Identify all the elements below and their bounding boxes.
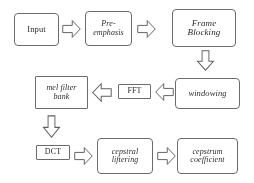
- arrow-preemphasis-to-frame-blocking: [137, 19, 156, 39]
- node-frame-blocking[interactable]: FrameBlocking: [172, 9, 236, 47]
- arrow-fft-to-mel-filter-bank: [92, 82, 112, 103]
- node-mel-filter-bank-label: mel filterbank: [36, 84, 87, 101]
- node-cepstrum-coefficient[interactable]: cepstrumcoefficient: [177, 138, 238, 174]
- node-windowing-label: windowing: [176, 89, 239, 98]
- arrow-cepstral-liftering-to-cepstrum-coefficient: [157, 146, 176, 166]
- node-cepstral-liftering-label: cepstralliftering: [98, 148, 152, 165]
- node-input-label: Input: [15, 25, 58, 34]
- node-input[interactable]: Input: [14, 13, 59, 46]
- arrow-frame-blocking-to-windowing: [196, 50, 215, 71]
- node-cepstral-liftering[interactable]: cepstralliftering: [97, 138, 153, 174]
- arrow-windowing-to-fft: [155, 82, 174, 102]
- node-windowing[interactable]: windowing: [175, 78, 240, 109]
- node-dct[interactable]: DCT: [36, 145, 70, 160]
- node-fft-label: FFT: [119, 87, 150, 95]
- node-pre-emphasis-label: Pre-emphasis: [86, 20, 131, 37]
- flowchart-canvas: Input Pre-emphasis FrameBlocking windowi…: [0, 0, 254, 183]
- node-dct-label: DCT: [37, 148, 69, 156]
- arrow-input-to-preemphasis: [62, 19, 81, 39]
- node-cepstrum-coefficient-label: cepstrumcoefficient: [178, 148, 237, 165]
- node-frame-blocking-label: FrameBlocking: [173, 19, 235, 38]
- node-fft[interactable]: FFT: [118, 84, 151, 99]
- arrow-mel-filter-bank-to-dct: [42, 115, 61, 138]
- node-mel-filter-bank[interactable]: mel filterbank: [35, 76, 88, 109]
- arrow-dct-to-cepstral-liftering: [74, 146, 93, 166]
- node-pre-emphasis[interactable]: Pre-emphasis: [85, 11, 132, 46]
